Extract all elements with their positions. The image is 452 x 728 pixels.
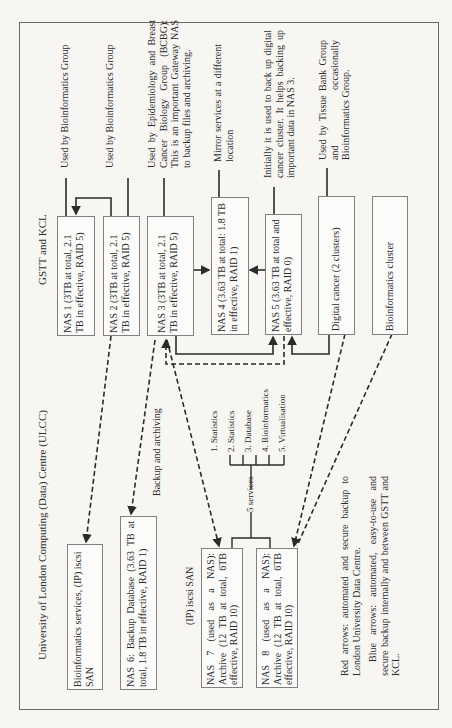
legend-blue-arrows: Blue arrows: automated, easy-to-use and …: [367, 476, 402, 676]
digital-cancer-label: Digital cancer (2 clusters): [330, 201, 342, 331]
annotation-nas1: Used by Bioinformatics Group: [59, 43, 71, 168]
nas7-box[interactable]: NAS 7 (used as a NAS): Archive (12 TB at…: [201, 548, 243, 688]
service-item: 5. Virtualisation: [277, 372, 289, 452]
annotation-nas3: Used by Epidemiology and Breast Cancer B…: [146, 20, 192, 168]
service-item: 2. Statistics: [226, 392, 238, 452]
service-item: 4. Bioinformatics: [260, 372, 272, 452]
ip-iscsi-san-label: (IP) iscsi SAN: [184, 545, 196, 625]
nas3-box[interactable]: NAS 3 (3TB at total, 2.1 TB in effective…: [147, 216, 194, 336]
nas8-label: NAS 8 (used as a NAS): Archive (12 TB at…: [260, 553, 295, 685]
nas6-box[interactable]: NAS 6: Backup Database (3.63 TB at total…: [120, 516, 157, 690]
nas5-box[interactable]: NAS 5 (3.63 TB at total and effective, R…: [265, 214, 302, 335]
nas5-label: NAS 5 (3.63 TB at total and effective, R…: [270, 218, 293, 332]
annotation-nas2: Used by Bioinformatics Group: [104, 43, 116, 168]
service-item: 1. Statistics: [209, 392, 221, 452]
five-services-label: 5 services: [245, 462, 257, 512]
nas4-box[interactable]: NAS 4 (3.63 TB at total: 1.8 TB in effec…: [211, 197, 249, 335]
annotation-nas4: Mirror services at a different location: [212, 44, 235, 162]
backup-archiving-label: Backup and archiving: [151, 386, 163, 496]
annotation-nas5: Initially it is used to back up digital …: [262, 30, 297, 178]
digital-cancer-box[interactable]: Digital cancer (2 clusters): [318, 196, 355, 335]
region-label-gstt-kcl: GSTT and KCL: [37, 165, 49, 285]
nas2-box[interactable]: NAS 2 (3TB at total, 2.1 TB in effective…: [103, 216, 140, 336]
legend-red-arrows: Red arrows: automated and secure backup …: [339, 476, 362, 676]
region-label-ulcc: University of London Computing (Data) Ce…: [37, 370, 49, 660]
bioinformatics-cluster-label: Bioinformatics cluster: [384, 201, 396, 331]
nas7-label: NAS 7 (used as a NAS): Archive (12 TB at…: [205, 553, 240, 685]
bioinformatics-services-box[interactable]: Bioinformatics services, (IP) iscsi SAN: [67, 544, 103, 690]
nas6-label: NAS 6: Backup Database (3.63 TB at total…: [125, 521, 148, 687]
service-item: 3. Database: [243, 392, 255, 452]
bioinformatics-cluster-box[interactable]: Bioinformatics cluster: [372, 196, 408, 335]
nas4-label: NAS 4 (3.63 TB at total: 1.8 TB in effec…: [216, 202, 239, 332]
nas1-box[interactable]: NAS 1 (3TB at total, 2.1 TB in effective…: [57, 216, 95, 336]
nas8-box[interactable]: NAS 8 (used as a NAS): Archive (12 TB at…: [256, 548, 298, 688]
nas2-label: NAS 2 (3TB at total, 2.1 TB in effective…: [108, 221, 131, 333]
nas3-label: NAS 3 (3TB at total, 2.1 TB in effective…: [156, 221, 179, 333]
nas1-label: NAS 1 (3TB at total, 2.1 TB in effective…: [62, 221, 85, 333]
bioinformatics-services-label: Bioinformatics services, (IP) iscsi SAN: [72, 549, 95, 687]
annotation-digital-cancer: Used by Tissue Bank Group and occasional…: [317, 40, 352, 160]
